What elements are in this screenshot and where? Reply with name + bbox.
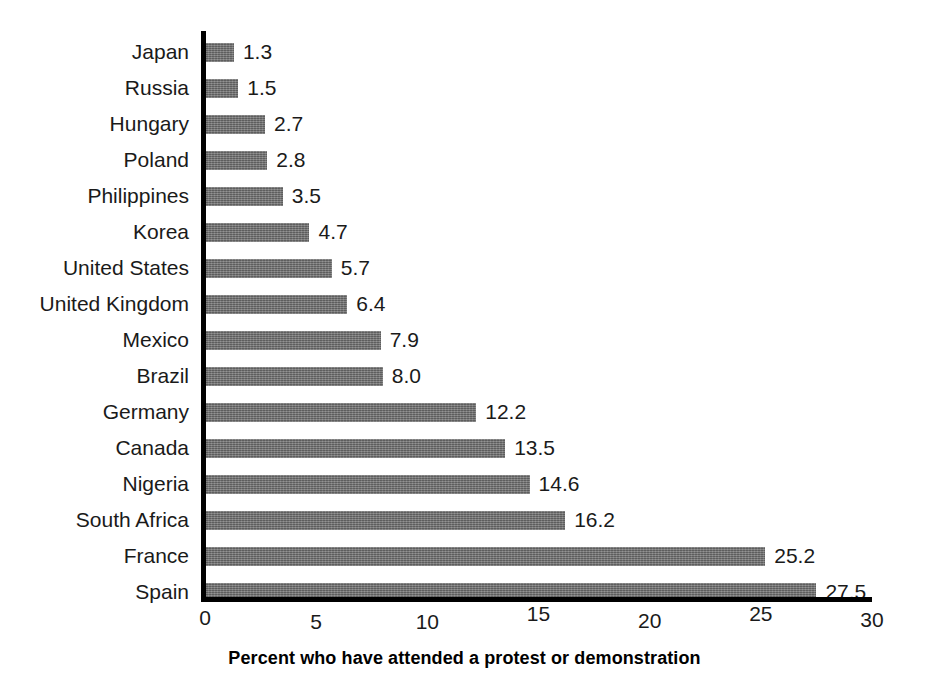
bar bbox=[205, 115, 265, 134]
bar-value-label: 1.5 bbox=[247, 70, 276, 106]
category-label: Poland bbox=[124, 142, 189, 178]
x-axis-tick-label: 30 bbox=[860, 608, 883, 632]
x-axis-tick-label: 0 bbox=[199, 606, 211, 630]
bar-row: Poland2.8 bbox=[205, 142, 872, 178]
category-label: Spain bbox=[135, 574, 189, 610]
bar bbox=[205, 403, 476, 422]
bar-value-label: 6.4 bbox=[356, 286, 385, 322]
bar bbox=[205, 367, 383, 386]
category-label: Korea bbox=[133, 214, 189, 250]
bar-row: Japan1.3 bbox=[205, 34, 872, 70]
category-label: Nigeria bbox=[122, 466, 189, 502]
bar-value-label: 13.5 bbox=[514, 430, 555, 466]
bar bbox=[205, 259, 332, 278]
x-axis-tick-label: 10 bbox=[416, 610, 439, 634]
category-label: Canada bbox=[115, 430, 189, 466]
category-label: Russia bbox=[125, 70, 189, 106]
bar-value-label: 7.9 bbox=[390, 322, 419, 358]
bar-row: Russia1.5 bbox=[205, 70, 872, 106]
bar-row: Brazil8.0 bbox=[205, 358, 872, 394]
bar-value-label: 25.2 bbox=[774, 538, 815, 574]
category-label: Mexico bbox=[122, 322, 189, 358]
bar-value-label: 14.6 bbox=[539, 466, 580, 502]
category-label: France bbox=[124, 538, 189, 574]
category-label: Hungary bbox=[110, 106, 189, 142]
bar bbox=[205, 547, 765, 566]
bar-value-label: 12.2 bbox=[485, 394, 526, 430]
x-axis-tick-label: 15 bbox=[527, 602, 550, 626]
bar-row: Nigeria14.6 bbox=[205, 466, 872, 502]
bar-value-label: 1.3 bbox=[243, 34, 272, 70]
bar bbox=[205, 439, 505, 458]
category-label: Philippines bbox=[87, 178, 189, 214]
y-axis-line bbox=[201, 31, 206, 601]
bar-row: United States5.7 bbox=[205, 250, 872, 286]
bar-row: United Kingdom6.4 bbox=[205, 286, 872, 322]
bar-row: Hungary2.7 bbox=[205, 106, 872, 142]
bar-row: Korea4.7 bbox=[205, 214, 872, 250]
category-label: Germany bbox=[103, 394, 189, 430]
bar bbox=[205, 223, 309, 242]
bar bbox=[205, 511, 565, 530]
bar bbox=[205, 79, 238, 98]
category-label: Brazil bbox=[136, 358, 189, 394]
category-label: South Africa bbox=[76, 502, 189, 538]
bar bbox=[205, 151, 267, 170]
category-label: Japan bbox=[132, 34, 189, 70]
bar-chart: Japan1.3Russia1.5Hungary2.7Poland2.8Phil… bbox=[0, 0, 929, 699]
bar-row: Mexico7.9 bbox=[205, 322, 872, 358]
category-label: United States bbox=[63, 250, 189, 286]
x-axis-tick-label: 25 bbox=[749, 602, 772, 626]
bar bbox=[205, 295, 347, 314]
bar-value-label: 2.7 bbox=[274, 106, 303, 142]
bar-value-label: 8.0 bbox=[392, 358, 421, 394]
bar-row: France25.2 bbox=[205, 538, 872, 574]
x-axis-caption: Percent who have attended a protest or d… bbox=[0, 648, 929, 669]
plot-area: Japan1.3Russia1.5Hungary2.7Poland2.8Phil… bbox=[205, 33, 872, 595]
bar bbox=[205, 475, 530, 494]
bar-value-label: 3.5 bbox=[292, 178, 321, 214]
bar-row: Philippines3.5 bbox=[205, 178, 872, 214]
bar-row: Germany12.2 bbox=[205, 394, 872, 430]
bar-value-label: 2.8 bbox=[276, 142, 305, 178]
bar-value-label: 16.2 bbox=[574, 502, 615, 538]
bar-value-label: 27.5 bbox=[825, 574, 866, 610]
bar bbox=[205, 331, 381, 350]
bar bbox=[205, 187, 283, 206]
bar-value-label: 5.7 bbox=[341, 250, 370, 286]
x-axis-tick-label: 5 bbox=[310, 610, 322, 634]
x-axis-tick-label: 20 bbox=[638, 609, 661, 633]
bar-value-label: 4.7 bbox=[318, 214, 347, 250]
bar-row: South Africa16.2 bbox=[205, 502, 872, 538]
category-label: United Kingdom bbox=[40, 286, 189, 322]
bar-row: Canada13.5 bbox=[205, 430, 872, 466]
bar bbox=[205, 43, 234, 62]
